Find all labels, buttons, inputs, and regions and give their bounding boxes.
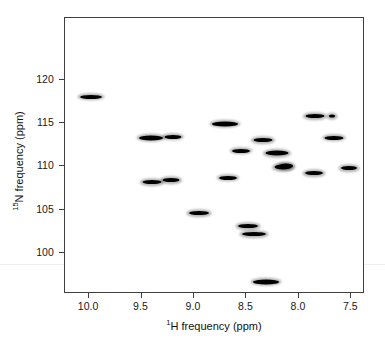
x-tick-mark [298,293,299,298]
y-tick-mark [59,79,64,80]
cross-peak [219,176,237,180]
x-tick-mark [88,293,89,298]
y-tick-label: 100 [22,246,54,258]
cross-peak [238,224,258,228]
cross-peak [242,232,266,236]
x-axis-title-text: H frequency (ppm) [171,320,262,332]
cross-peak [305,171,323,175]
y-axis-title-superscript: 15 [11,202,20,210]
y-tick-mark [59,165,64,166]
y-tick-label: 115 [22,116,54,128]
x-tick-label: 8.5 [225,300,265,312]
y-tick-mark [59,252,64,253]
cross-peak [341,166,357,170]
x-tick-mark [141,293,142,298]
cross-peak [143,180,162,184]
x-tick-label: 9.5 [121,300,161,312]
plot-area [64,17,364,293]
cross-peak [80,95,102,99]
cross-peak [265,151,288,156]
cross-peak [305,114,324,118]
cross-peak [162,178,179,182]
y-tick-label: 110 [22,159,54,171]
cross-peak [253,279,279,284]
x-tick-mark [350,293,351,298]
cross-peak [279,164,293,169]
y-tick-mark [59,209,64,210]
nmr-spectrum-figure: 10.09.59.08.58.07.5 100105110115120 1H f… [0,0,385,348]
y-tick-label: 105 [22,203,54,215]
x-tick-label: 7.5 [330,300,370,312]
x-tick-label: 8.0 [278,300,318,312]
y-axis-title: 15N frequency (ppm) [13,23,25,299]
y-axis-title-text: N frequency (ppm) [13,111,25,202]
cross-peak [324,136,343,140]
cross-peak [165,135,182,139]
cross-peak [254,138,273,142]
y-tick-label: 120 [22,73,54,85]
x-tick-label: 10.0 [68,300,108,312]
x-tick-label: 9.0 [173,300,213,312]
y-tick-mark [59,122,64,123]
cross-peak [189,211,209,215]
x-axis-title: 1H frequency (ppm) [64,320,364,332]
cross-peak [329,115,335,118]
cross-peak [212,121,238,126]
x-tick-mark [193,293,194,298]
x-tick-mark [245,293,246,298]
peak-layer [65,18,363,292]
cross-peak [139,135,163,140]
cross-peak [232,149,250,153]
